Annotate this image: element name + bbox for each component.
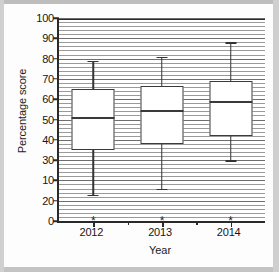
x-axis-tick-labels: 201220132014: [57, 226, 263, 240]
upper-whisker: [230, 42, 232, 81]
y-tick-label: 30: [24, 154, 54, 166]
box-iqr: [140, 86, 183, 144]
lower-whisker-cap: [88, 195, 99, 197]
box-plot-figure: Percentage score 1009080706050403010200 …: [4, 4, 273, 267]
lower-whisker: [161, 144, 163, 189]
scan-edge-right: [273, 0, 279, 272]
x-tick-label-2013: 2013: [130, 226, 190, 238]
box-plot-2012[interactable]: *: [59, 18, 128, 221]
y-tick-label: 20: [24, 195, 54, 207]
upper-whisker-cap: [225, 42, 236, 44]
y-tick-label: 100: [24, 12, 54, 24]
y-tick-label: 60: [24, 93, 54, 105]
x-tick-label-2014: 2014: [199, 226, 259, 238]
x-tick-mark-minor: [196, 221, 198, 225]
y-tick-label: 70: [24, 73, 54, 85]
y-tick-label: 10: [24, 174, 54, 186]
x-tick-mark-minor: [128, 221, 130, 225]
y-tick-label: 50: [24, 114, 54, 126]
scan-edge-bottom: [0, 267, 279, 272]
y-tick-label: 80: [24, 53, 54, 65]
x-axis-label: Year: [57, 244, 263, 256]
x-tick-label-2012: 2012: [61, 226, 121, 238]
upper-whisker-cap: [156, 57, 167, 59]
box-plot-2014[interactable]: *: [196, 18, 265, 221]
y-tick-label: 90: [24, 32, 54, 44]
median-line: [140, 110, 183, 112]
lower-whisker-cap: [225, 160, 236, 162]
box-plot-2013[interactable]: *: [128, 18, 197, 221]
y-tick-label: 40: [24, 134, 54, 146]
box-iqr: [72, 89, 115, 150]
median-line: [72, 117, 115, 119]
box-iqr: [209, 81, 252, 136]
plot-area: ***: [57, 18, 265, 223]
lower-whisker-cap: [156, 189, 167, 191]
lower-whisker: [93, 150, 95, 195]
scanned-page: Percentage score 1009080706050403010200 …: [0, 0, 279, 272]
median-line: [209, 101, 252, 103]
upper-whisker-cap: [88, 61, 99, 63]
y-tick-label: 0: [24, 215, 54, 227]
upper-whisker: [93, 61, 95, 89]
lower-whisker: [230, 136, 232, 160]
y-axis-tick-labels: 1009080706050403010200: [24, 18, 54, 221]
upper-whisker: [161, 57, 163, 86]
